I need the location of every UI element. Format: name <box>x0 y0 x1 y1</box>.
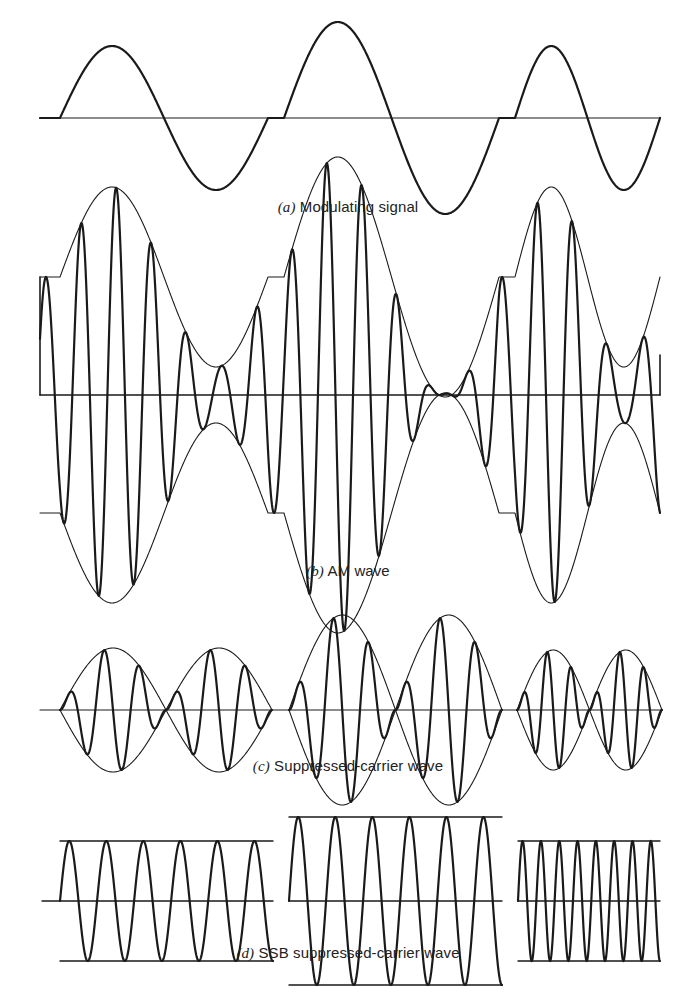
caption-ssb-suppressed-carrier-wave: (d) SSB suppressed-carrier wave <box>0 944 696 962</box>
caption-modulating-signal: (a) Modulating signal <box>0 198 696 216</box>
caption-text: SSB suppressed-carrier wave <box>258 944 459 961</box>
caption-text: Suppressed-carrier wave <box>274 757 443 774</box>
modulation-figure: (a) Modulating signal (b) AM wave (c) Su… <box>0 0 696 994</box>
waveform-canvas <box>0 0 696 994</box>
caption-text: Modulating signal <box>300 198 418 215</box>
caption-tag: (c) <box>253 758 270 774</box>
caption-text: AM wave <box>327 562 389 579</box>
am-carrier-curve <box>40 163 660 631</box>
caption-am-wave: (b) AM wave <box>0 562 696 580</box>
caption-tag: (b) <box>306 563 324 579</box>
caption-tag: (d) <box>236 945 254 961</box>
caption-suppressed-carrier-wave: (c) Suppressed-carrier wave <box>0 757 696 775</box>
panel-c-suppressed-carrier-wave <box>40 615 662 805</box>
caption-tag: (a) <box>278 199 296 215</box>
panel-a-modulating-signal <box>40 22 660 214</box>
